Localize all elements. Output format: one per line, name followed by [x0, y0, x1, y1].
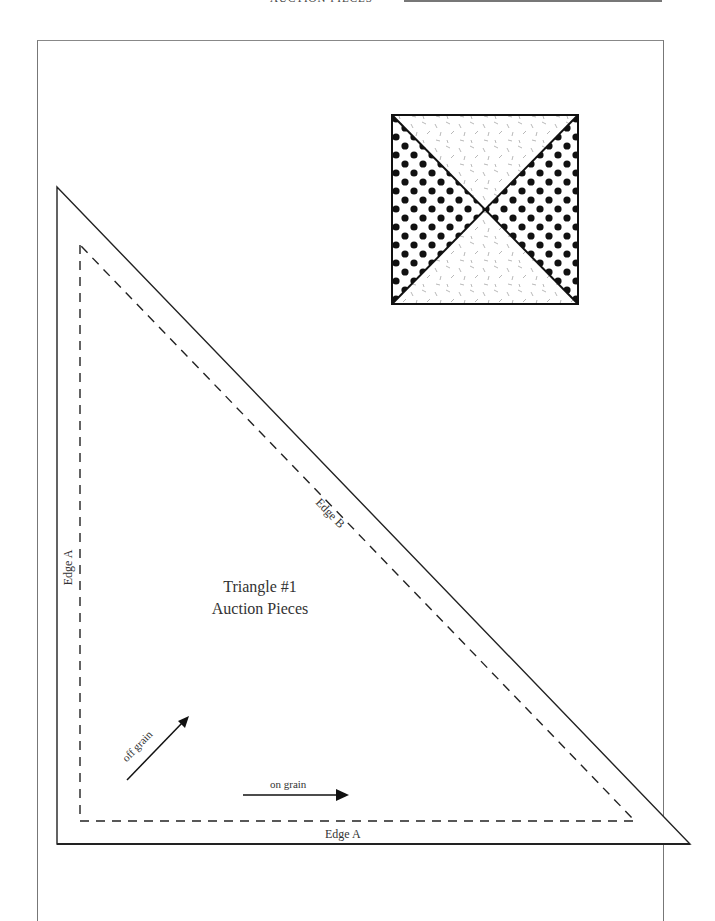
edge-a-left-label: Edge A — [61, 550, 76, 586]
template-subtitle: Auction Pieces — [180, 598, 340, 620]
edge-a-bottom-label: Edge A — [325, 827, 361, 842]
template-title-block: Triangle #1 Auction Pieces — [180, 576, 340, 620]
template-title: Triangle #1 — [180, 576, 340, 598]
triangle-cut-line — [57, 187, 690, 844]
on-grain-label: on grain — [270, 778, 306, 790]
block-preview — [392, 115, 578, 304]
